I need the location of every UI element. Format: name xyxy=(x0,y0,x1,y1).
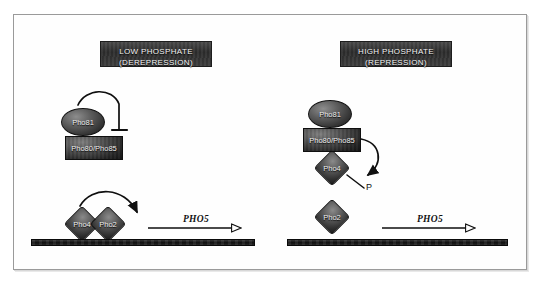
panel-header-low-line1: LOW PHOSPHATE xyxy=(101,46,211,57)
protein-complex-pho80-pho85-low-label: Pho80/Pho85 xyxy=(71,144,116,153)
phosphate-group-label: P xyxy=(366,182,372,192)
dna-bar-high xyxy=(287,239,508,246)
panel-header-high-phosphate: HIGH PHOSPHATE (REPRESSION) xyxy=(340,41,452,67)
protein-complex-pho80-pho85-high-label: Pho80/Pho85 xyxy=(309,136,354,145)
panel-header-low-line2: (DEREPRESSION) xyxy=(101,57,211,68)
figure-root: LOW PHOSPHATE (DEREPRESSION) Pho81 Pho80… xyxy=(0,0,549,287)
protein-pho81-high-label: Pho81 xyxy=(319,110,341,119)
protein-complex-pho80-pho85-high: Pho80/Pho85 xyxy=(303,128,361,152)
panel-header-low-phosphate: LOW PHOSPHATE (DEREPRESSION) xyxy=(100,41,212,67)
gene-label-pho5-high: PHO5 xyxy=(417,214,443,224)
protein-complex-pho80-pho85-low: Pho80/Pho85 xyxy=(65,136,123,160)
panel-header-high-line2: (REPRESSION) xyxy=(341,57,451,68)
protein-pho81-high: Pho81 xyxy=(308,100,352,128)
gene-label-pho5-low: PHO5 xyxy=(183,214,209,224)
protein-pho81-low: Pho81 xyxy=(61,108,105,136)
protein-pho81-low-label: Pho81 xyxy=(72,118,94,127)
panel-header-high-line1: HIGH PHOSPHATE xyxy=(341,46,451,57)
dna-bar-low xyxy=(31,239,255,246)
